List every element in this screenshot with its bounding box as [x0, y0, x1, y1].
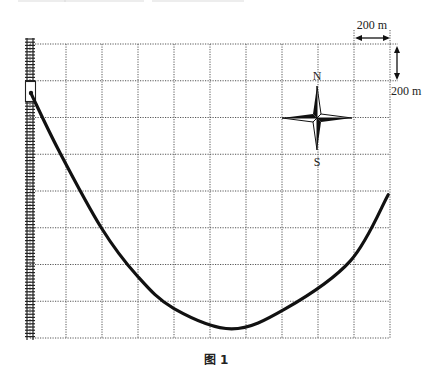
route-curve [31, 94, 388, 329]
vertical-scale-label: 200 m [391, 84, 422, 98]
figure-caption: 图 1 [204, 353, 229, 367]
route-map-figure: N S 200 m 200 m 图 1 [0, 0, 441, 377]
compass-north-label: N [313, 69, 322, 83]
compass-south-label: S [314, 155, 321, 169]
horizontal-scale-label: 200 m [357, 18, 388, 32]
route-start-point [29, 91, 33, 95]
vertical-scale-arrow [394, 46, 400, 80]
grid [30, 44, 398, 338]
horizontal-scale-arrow [355, 35, 390, 41]
compass-icon [282, 86, 352, 150]
